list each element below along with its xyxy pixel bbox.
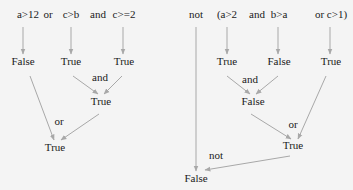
- value-node: True: [45, 141, 65, 153]
- expression-token: and: [249, 8, 265, 20]
- value-node: False: [184, 172, 207, 184]
- expression-token: a>12: [17, 8, 39, 20]
- operator-label: and: [242, 73, 258, 85]
- expression-token: (a>2: [217, 8, 237, 20]
- value-node: True: [217, 55, 237, 67]
- arrow-edge: [251, 114, 291, 139]
- operator-label: and: [92, 71, 108, 83]
- operator-label: not: [209, 149, 223, 161]
- expression-token: not: [189, 8, 203, 20]
- arrow-edge: [30, 76, 54, 140]
- value-node: True: [283, 139, 303, 151]
- value-node: True: [321, 55, 341, 67]
- value-node: True: [61, 55, 81, 67]
- arrow-edge: [256, 76, 278, 94]
- expression-token: c>b: [63, 8, 80, 20]
- expression-token: or: [43, 8, 52, 20]
- expression-token: or c>1): [315, 8, 347, 20]
- value-node: True: [114, 55, 134, 67]
- expression-token: b>a: [271, 8, 288, 20]
- arrow-edge: [61, 114, 99, 140]
- value-node: False: [267, 55, 290, 67]
- operator-label: or: [288, 118, 297, 130]
- expression-token: c>=2: [113, 8, 136, 20]
- operator-label: or: [54, 115, 63, 127]
- expression-token: and: [90, 8, 106, 20]
- value-node: True: [91, 95, 111, 107]
- value-node: False: [11, 55, 34, 67]
- arrow-edge: [298, 76, 326, 139]
- edge-layer: [0, 0, 353, 190]
- value-node: False: [241, 95, 264, 107]
